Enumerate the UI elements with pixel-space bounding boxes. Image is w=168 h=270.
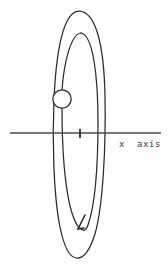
- orbit-direction-arrowhead: [78, 215, 85, 229]
- orbit-diagram-canvas: [0, 0, 168, 270]
- orbit-diagram-figure: x axis: [0, 0, 168, 270]
- orbiting-body-circle: [53, 90, 71, 108]
- x-axis-label: x axis: [119, 139, 161, 150]
- inner-orbit-path: [80, 33, 98, 230]
- inner-orbit-lower-branch: [62, 108, 79, 228]
- inner-orbit-left-branch: [62, 33, 81, 90]
